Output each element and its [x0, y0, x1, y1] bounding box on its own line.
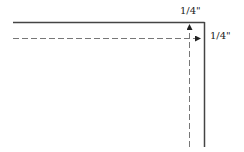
side-margin-label: 1/4"	[210, 30, 231, 41]
top-margin-label: 1/4"	[180, 5, 201, 16]
margin-diagram: 1/4" 1/4"	[0, 0, 244, 152]
diagram-lines	[0, 0, 244, 152]
